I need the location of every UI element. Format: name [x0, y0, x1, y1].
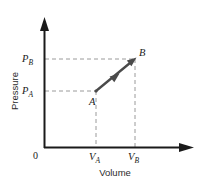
y-axis-title: Pressure: [9, 72, 20, 110]
data-point-label-a: A: [88, 96, 96, 107]
x-tick-label-vb-subscript: B: [134, 156, 139, 165]
y-tick-label-pa-subscript: A: [27, 90, 33, 99]
y-axis-arrowhead-icon: [40, 17, 49, 31]
data-point-label-b: B: [139, 47, 146, 58]
y-tick-label-pa: PA: [21, 85, 33, 99]
x-axis-arrowhead-icon: [179, 143, 194, 152]
axes-group: [40, 17, 194, 152]
data-point-a-marker: [94, 89, 97, 92]
pv-diagram-canvas: A B PB PA VA VB 0 Pressure Volume: [0, 0, 215, 187]
x-tick-label-va-subscript: A: [94, 156, 100, 165]
pv-diagram-figure: A B PB PA VA VB 0 Pressure Volume: [0, 0, 215, 187]
process-line-group: [94, 58, 136, 93]
x-tick-label-va: VA: [89, 151, 100, 165]
x-tick-label-vb: VB: [128, 151, 139, 165]
origin-label: 0: [33, 150, 38, 161]
y-tick-label-pb: PB: [21, 53, 33, 67]
y-tick-label-pb-subscript: B: [28, 58, 33, 67]
x-axis-title: Volume: [99, 167, 131, 178]
